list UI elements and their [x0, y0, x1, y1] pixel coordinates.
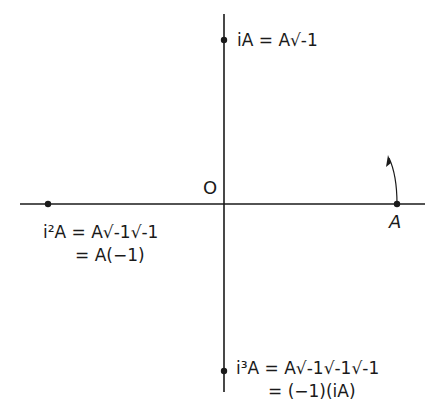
arrowhead-icon: [386, 155, 391, 167]
origin-label: O: [203, 178, 217, 198]
i2A-label-line2: = A(−1): [75, 245, 145, 265]
i3A-label-line1: i³A = A√-1√-1√-1: [236, 358, 379, 378]
point-i3A: [221, 368, 227, 374]
rotation-arc-icon: [389, 158, 397, 204]
i3A-label-line2: = (−1)(iA): [268, 381, 356, 401]
iA-label: iA = A√-1: [237, 30, 318, 50]
diagram-canvas: [0, 0, 435, 417]
i2A-label-line1: i²A = A√-1√-1: [43, 222, 158, 242]
point-i2A: [45, 201, 51, 207]
point-A-label: A: [389, 212, 401, 232]
point-iA: [221, 37, 227, 43]
